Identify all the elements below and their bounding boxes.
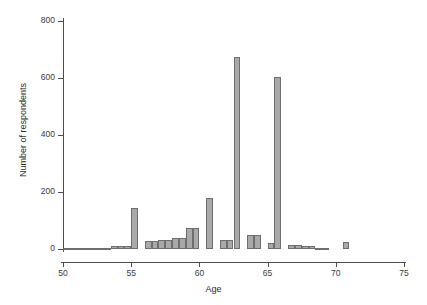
x-axis-line — [61, 262, 406, 263]
histogram-bar — [152, 241, 159, 249]
x-tick-label: 55 — [116, 268, 146, 278]
histogram-figure: Number of respondents 0200400600800 5055… — [0, 0, 427, 305]
histogram-bar — [124, 246, 131, 249]
x-tick-mark — [268, 262, 269, 267]
histogram-bar — [118, 246, 125, 249]
x-tick-label: 50 — [48, 268, 78, 278]
histogram-bar — [83, 248, 90, 250]
x-tick-mark — [199, 262, 200, 267]
x-tick-label: 65 — [253, 268, 283, 278]
histogram-bar — [186, 228, 193, 249]
histogram-bar — [247, 235, 254, 249]
x-tick-mark — [63, 262, 64, 267]
histogram-bar — [227, 240, 234, 249]
histogram-bar — [131, 208, 138, 249]
histogram-bar — [288, 245, 295, 249]
histogram-bar — [234, 57, 241, 249]
histogram-bar — [322, 248, 329, 250]
histogram-bar — [206, 198, 213, 249]
histogram-bar — [193, 228, 200, 249]
histogram-bar — [63, 248, 70, 250]
histogram-bar — [97, 248, 104, 250]
histogram-bar — [165, 240, 172, 249]
histogram-bar — [295, 245, 302, 249]
x-tick-mark — [404, 262, 405, 267]
histogram-bar — [158, 240, 165, 249]
histogram-bar — [179, 238, 186, 249]
histogram-bar — [302, 246, 309, 249]
histogram-bar — [309, 246, 316, 249]
histogram-bar — [104, 248, 111, 250]
x-tick-label: 60 — [184, 268, 214, 278]
histogram-bar — [268, 243, 275, 249]
x-tick-label: 75 — [389, 268, 419, 278]
histogram-bar — [274, 77, 281, 249]
histogram-bar — [70, 248, 77, 250]
x-tick-mark — [336, 262, 337, 267]
histogram-bar — [77, 248, 84, 250]
histogram-bar — [220, 240, 227, 249]
histogram-bar — [254, 235, 261, 249]
histogram-bar — [111, 246, 118, 249]
x-axis-label: Age — [0, 284, 427, 294]
histogram-bar — [145, 241, 152, 249]
histogram-bar — [172, 238, 179, 249]
histogram-bar — [90, 248, 97, 250]
histogram-bar — [343, 242, 350, 249]
histogram-bars — [0, 0, 427, 305]
histogram-bar — [315, 248, 322, 250]
x-tick-mark — [131, 262, 132, 267]
x-tick-label: 70 — [321, 268, 351, 278]
